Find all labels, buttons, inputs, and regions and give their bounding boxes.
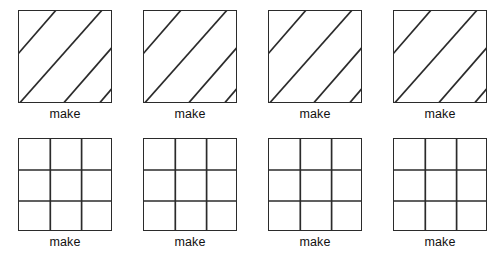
figure-cell-hatched-2[interactable]: make — [143, 10, 237, 122]
grid-3x3-icon — [19, 139, 112, 231]
figure-label: make — [425, 234, 456, 250]
figure-cell-hatched-4[interactable]: make — [393, 10, 487, 122]
hatched-square-3 — [268, 10, 362, 103]
grid-3x3-icon — [144, 139, 237, 231]
diagonal-stripes-icon — [394, 11, 487, 103]
figure-cell-grid-2[interactable]: make — [143, 138, 237, 250]
diagonal-stripes-icon — [19, 11, 112, 103]
hatched-square-row: make make — [0, 10, 504, 122]
grid-3x3-icon — [269, 139, 362, 231]
figure-cell-grid-3[interactable]: make — [268, 138, 362, 250]
figure-label: make — [50, 234, 81, 250]
grid-square-4 — [393, 138, 487, 231]
grid-square-row: make make — [0, 138, 504, 250]
grid-square-2 — [143, 138, 237, 231]
figure-cell-hatched-3[interactable]: make — [268, 10, 362, 122]
figure-sheet: make make — [0, 0, 504, 255]
figure-cell-hatched-1[interactable]: make — [18, 10, 112, 122]
figure-label: make — [300, 106, 331, 122]
figure-label: make — [175, 106, 206, 122]
grid-square-1 — [18, 138, 112, 231]
grid-3x3-icon — [394, 139, 487, 231]
figure-cell-grid-1[interactable]: make — [18, 138, 112, 250]
diagonal-stripes-icon — [269, 11, 362, 103]
figure-label: make — [50, 106, 81, 122]
hatched-square-2 — [143, 10, 237, 103]
hatched-square-4 — [393, 10, 487, 103]
figure-label: make — [425, 106, 456, 122]
figure-label: make — [300, 234, 331, 250]
diagonal-stripes-icon — [144, 11, 237, 103]
grid-square-3 — [268, 138, 362, 231]
hatched-square-1 — [18, 10, 112, 103]
figure-cell-grid-4[interactable]: make — [393, 138, 487, 250]
figure-label: make — [175, 234, 206, 250]
